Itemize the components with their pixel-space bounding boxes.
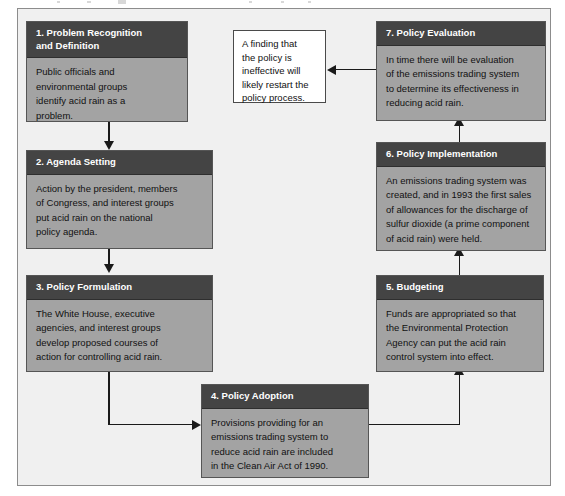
feedback-note-text: A finding that the policy is ineffective… [234, 31, 325, 105]
node-step-4-body: Provisions providing for an emissions tr… [202, 409, 368, 480]
node-step-2-title: 2. Agenda Setting [27, 151, 212, 175]
scan-artifact-strip [0, 0, 565, 7]
node-step-7[interactable]: 7. Policy Evaluation In time there will … [376, 21, 546, 121]
connector-4-to-5-horizontal [369, 424, 460, 426]
connector-3-to-4-vertical [108, 372, 110, 425]
node-step-5-title: 5. Budgeting [377, 276, 543, 300]
node-step-2-body: Action by the president, members of Cong… [27, 175, 212, 246]
connector-7-to-callout [336, 69, 377, 71]
arrowhead-3-to-4 [192, 420, 201, 430]
diagram-frame: 1. Problem Recognition and Definition Pu… [17, 8, 551, 486]
node-step-4-title: 4. Policy Adoption [202, 385, 368, 409]
feedback-note-callout[interactable]: A finding that the policy is ineffective… [233, 30, 326, 103]
node-step-1-body: Public officials and environmental group… [27, 58, 187, 129]
node-step-5-body: Funds are appropriated so that the Envir… [377, 300, 543, 371]
connector-4-to-5-vertical [459, 371, 461, 425]
node-step-6-body: An emissions trading system was created,… [377, 167, 545, 253]
arrowhead-1-to-2 [104, 141, 114, 150]
node-step-6[interactable]: 6. Policy Implementation An emissions tr… [376, 142, 546, 251]
arrowhead-7-to-callout [327, 65, 336, 75]
arrowhead-2-to-3 [104, 264, 114, 273]
node-step-3[interactable]: 3. Policy Formulation The White House, e… [26, 275, 213, 372]
node-step-3-title: 3. Policy Formulation [27, 276, 212, 300]
node-step-5[interactable]: 5. Budgeting Funds are appropriated so t… [376, 275, 544, 372]
node-step-7-body: In time there will be evaluation of the … [377, 46, 545, 117]
node-step-4[interactable]: 4. Policy Adoption Provisions providing … [201, 384, 369, 478]
node-step-2[interactable]: 2. Agenda Setting Action by the presiden… [26, 150, 213, 249]
node-step-1[interactable]: 1. Problem Recognition and Definition Pu… [26, 21, 188, 122]
connector-3-to-4-horizontal [108, 424, 198, 426]
node-step-3-body: The White House, executive agencies, and… [27, 300, 212, 371]
node-step-7-title: 7. Policy Evaluation [377, 22, 545, 46]
node-step-6-title: 6. Policy Implementation [377, 143, 545, 167]
node-step-1-title: 1. Problem Recognition and Definition [27, 22, 187, 58]
